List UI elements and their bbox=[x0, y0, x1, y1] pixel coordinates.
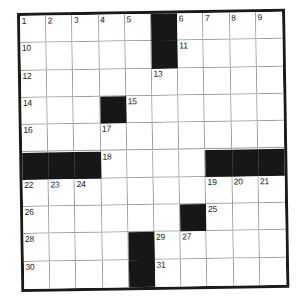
grid-cell[interactable] bbox=[231, 121, 258, 149]
grid-cell[interactable]: 15 bbox=[126, 96, 153, 124]
grid-cell[interactable] bbox=[204, 40, 231, 68]
grid-cell[interactable]: 6 bbox=[177, 13, 204, 41]
grid-cell[interactable] bbox=[230, 40, 257, 68]
grid-cell[interactable]: 31 bbox=[155, 259, 182, 287]
grid-cell[interactable] bbox=[152, 95, 179, 123]
grid-cell[interactable] bbox=[233, 231, 260, 259]
grid-cell[interactable] bbox=[180, 177, 207, 205]
grid-cell[interactable] bbox=[49, 206, 76, 234]
grid-cell[interactable] bbox=[73, 69, 100, 97]
grid-cell[interactable] bbox=[204, 67, 231, 95]
grid-cell[interactable] bbox=[125, 41, 152, 69]
grid-block-cell bbox=[48, 152, 75, 180]
grid-cell[interactable] bbox=[154, 205, 181, 233]
grid-cell[interactable]: 21 bbox=[258, 176, 285, 204]
grid-cell[interactable] bbox=[256, 39, 283, 67]
clue-number: 25 bbox=[208, 204, 217, 214]
grid-cell[interactable] bbox=[207, 231, 234, 259]
grid-cell[interactable] bbox=[179, 150, 206, 178]
grid-cell[interactable]: 25 bbox=[206, 204, 233, 232]
grid-cell[interactable]: 3 bbox=[72, 15, 99, 43]
grid-cell[interactable] bbox=[205, 122, 232, 150]
grid-cell[interactable]: 16 bbox=[22, 125, 49, 153]
grid-cell[interactable] bbox=[99, 69, 126, 97]
grid-cell[interactable]: 24 bbox=[75, 178, 102, 206]
grid-cell[interactable] bbox=[102, 233, 129, 261]
grid-cell[interactable] bbox=[259, 203, 286, 231]
grid-cell[interactable] bbox=[257, 94, 284, 122]
grid-cell[interactable] bbox=[126, 68, 153, 96]
grid-cell[interactable] bbox=[75, 206, 102, 234]
grid-cell[interactable] bbox=[233, 258, 260, 286]
grid-cell[interactable] bbox=[233, 203, 260, 231]
grid-cell[interactable]: 4 bbox=[99, 14, 126, 42]
grid-cell[interactable] bbox=[230, 67, 257, 95]
grid-cell[interactable] bbox=[259, 230, 286, 258]
grid-cell[interactable]: 7 bbox=[203, 13, 230, 41]
grid-cell[interactable] bbox=[48, 124, 75, 152]
crossword-grid[interactable]: 1234567891011121314151617182223241920212… bbox=[17, 9, 289, 292]
grid-cell[interactable] bbox=[127, 123, 154, 151]
grid-cell[interactable]: 12 bbox=[21, 70, 48, 98]
grid-cell[interactable] bbox=[74, 124, 101, 152]
grid-cell[interactable] bbox=[154, 177, 181, 205]
grid-cell[interactable] bbox=[127, 178, 154, 206]
clue-number: 24 bbox=[77, 179, 86, 189]
grid-cell[interactable] bbox=[76, 233, 103, 261]
grid-cell[interactable] bbox=[47, 42, 74, 70]
grid-cell[interactable] bbox=[73, 42, 100, 70]
clue-number: 29 bbox=[156, 232, 165, 242]
grid-cell[interactable] bbox=[128, 205, 155, 233]
grid-cell[interactable]: 27 bbox=[181, 231, 208, 259]
grid-cell[interactable]: 2 bbox=[46, 15, 73, 43]
grid-cell[interactable] bbox=[153, 123, 180, 151]
grid-cell[interactable]: 13 bbox=[152, 68, 179, 96]
grid-cell[interactable] bbox=[74, 97, 101, 125]
grid-cell[interactable] bbox=[76, 260, 103, 288]
grid-cell[interactable] bbox=[178, 68, 205, 96]
grid-cell[interactable]: 9 bbox=[256, 12, 283, 40]
grid-cell[interactable]: 17 bbox=[100, 123, 127, 151]
grid-block-cell bbox=[128, 232, 155, 260]
grid-cell[interactable] bbox=[179, 122, 206, 150]
grid-cell[interactable]: 23 bbox=[49, 179, 76, 207]
grid-cell[interactable] bbox=[127, 150, 154, 178]
grid-cell[interactable] bbox=[153, 150, 180, 178]
grid-cell[interactable] bbox=[231, 94, 258, 122]
grid-cell[interactable] bbox=[260, 257, 287, 285]
clue-number: 30 bbox=[25, 261, 34, 271]
grid-cell[interactable] bbox=[102, 260, 129, 288]
grid-cell[interactable]: 29 bbox=[154, 232, 181, 260]
grid-cell[interactable]: 18 bbox=[101, 151, 128, 179]
clue-number: 3 bbox=[74, 15, 79, 25]
grid-cell[interactable]: 28 bbox=[23, 234, 50, 262]
grid-cell[interactable] bbox=[205, 95, 232, 123]
clue-number: 17 bbox=[102, 124, 111, 134]
grid-cell[interactable]: 19 bbox=[206, 176, 233, 204]
grid-cell[interactable]: 8 bbox=[230, 12, 257, 40]
grid-cell[interactable] bbox=[50, 261, 77, 289]
grid-cell[interactable] bbox=[99, 42, 126, 70]
grid-cell[interactable] bbox=[47, 70, 74, 98]
grid-cell[interactable]: 30 bbox=[24, 261, 51, 289]
grid-cell[interactable] bbox=[207, 258, 234, 286]
grid-cell[interactable]: 5 bbox=[125, 14, 152, 42]
grid-cell[interactable]: 26 bbox=[23, 207, 50, 235]
grid-cell[interactable]: 11 bbox=[178, 40, 205, 68]
grid-cell[interactable] bbox=[50, 233, 77, 261]
clue-number: 7 bbox=[205, 13, 210, 23]
grid-cell[interactable] bbox=[48, 97, 75, 125]
grid-cell[interactable]: 22 bbox=[23, 179, 50, 207]
grid-cell[interactable] bbox=[257, 66, 284, 94]
grid-cell[interactable] bbox=[102, 205, 129, 233]
grid-cell[interactable] bbox=[101, 178, 128, 206]
grid-cell[interactable] bbox=[179, 95, 206, 123]
grid-cell[interactable]: 10 bbox=[20, 43, 47, 71]
clue-number: 23 bbox=[50, 179, 59, 189]
grid-cell[interactable]: 20 bbox=[232, 176, 259, 204]
clue-number: 5 bbox=[126, 14, 131, 24]
grid-cell[interactable]: 1 bbox=[20, 16, 47, 44]
grid-cell[interactable]: 14 bbox=[21, 97, 48, 125]
grid-cell[interactable] bbox=[258, 121, 285, 149]
grid-cell[interactable] bbox=[181, 259, 208, 287]
